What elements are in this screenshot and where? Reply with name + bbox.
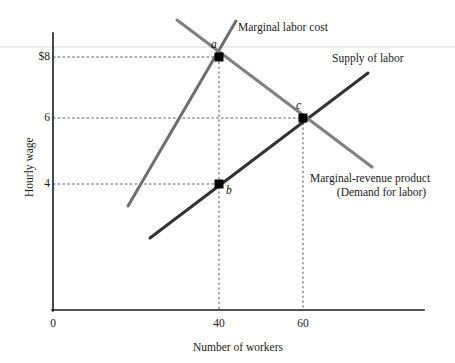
y-axis-title: Hourly wage: [23, 137, 35, 197]
data-point-b: [215, 180, 224, 189]
monopsony-labor-market-chart: [0, 0, 455, 363]
curve-supply-of-labor: [150, 73, 368, 238]
data-point-a: [215, 53, 224, 62]
data-point-c: [299, 114, 308, 123]
guide-lines: [53, 57, 303, 310]
data-points: [215, 53, 308, 189]
x-axis-title: Number of workers: [138, 341, 338, 353]
curve-marginal-labor-cost: [128, 21, 236, 206]
chart-figure: $8 6 4 0 40 60 Number of workers Hourly …: [0, 0, 455, 363]
